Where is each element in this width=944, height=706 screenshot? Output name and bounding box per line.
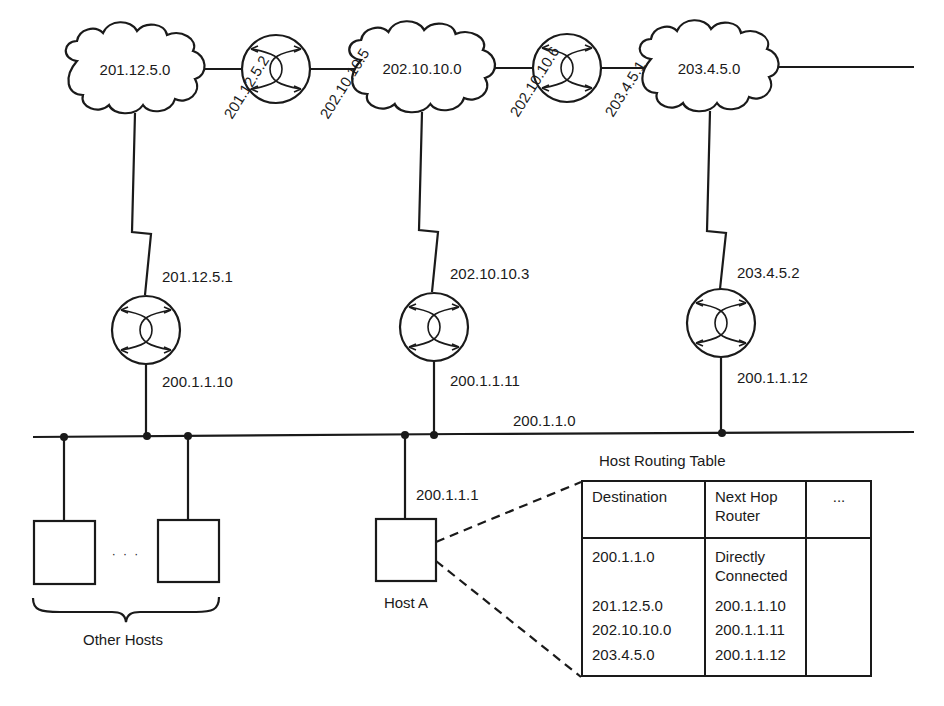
brace-icon bbox=[33, 597, 219, 622]
table-row: 202.10.10.0 200.1.1.11 bbox=[583, 618, 870, 643]
serial-link-r2 bbox=[419, 112, 438, 292]
host-icon-other-1 bbox=[34, 521, 95, 584]
serial-link-r1 bbox=[132, 113, 151, 295]
header-next-hop: Next HopRouter bbox=[705, 482, 806, 538]
router-icon-r1 bbox=[112, 296, 180, 364]
iface-label-203-4-5-2: 203.4.5.2 bbox=[737, 264, 800, 281]
router-icon-r3 bbox=[687, 289, 755, 357]
junction-dot bbox=[430, 431, 438, 439]
iface-label-200-1-1-12: 200.1.1.12 bbox=[737, 369, 808, 386]
network-label-net1: 201.12.5.0 bbox=[100, 61, 171, 78]
network-label-net2: 202.10.10.0 bbox=[382, 60, 461, 77]
header-destination: Destination bbox=[583, 482, 705, 538]
cell-extra bbox=[806, 643, 870, 675]
serial-link-r3 bbox=[707, 111, 726, 289]
table-row: 203.4.5.0 200.1.1.12 bbox=[583, 643, 870, 675]
iface-label-202-10-10-3: 202.10.10.3 bbox=[450, 265, 529, 282]
cell-destination: 200.1.1.0 bbox=[583, 538, 705, 594]
header-next-hop-line2: Router bbox=[715, 507, 760, 524]
table-header-row: Destination Next HopRouter ... bbox=[583, 482, 870, 538]
cell-next-hop: 200.1.1.12 bbox=[705, 643, 806, 675]
header-more: ... bbox=[806, 482, 870, 538]
cell-next-hop: 200.1.1.11 bbox=[705, 618, 806, 643]
junction-dot bbox=[718, 429, 726, 437]
routing-table-title: Host Routing Table bbox=[599, 452, 725, 469]
iface-label-200-1-1-10: 200.1.1.10 bbox=[162, 373, 233, 390]
cell-next-hop: DirectlyConnected bbox=[705, 538, 806, 594]
header-next-hop-line1: Next Hop bbox=[715, 488, 778, 505]
network-label-lan: 200.1.1.0 bbox=[513, 412, 576, 429]
junction-dot bbox=[143, 432, 151, 440]
callout-line-bottom bbox=[436, 561, 581, 677]
host-a-ip-label: 200.1.1.1 bbox=[416, 486, 479, 503]
lan-bus-200-1-1-0 bbox=[33, 432, 914, 437]
hosts-ellipsis: · · · bbox=[112, 547, 141, 561]
cell-destination: 201.12.5.0 bbox=[583, 594, 705, 619]
iface-label-201-12-5-1: 201.12.5.1 bbox=[162, 268, 233, 285]
cell-next-hop: 200.1.1.10 bbox=[705, 594, 806, 619]
cell-destination: 202.10.10.0 bbox=[583, 618, 705, 643]
router-icon-r2 bbox=[400, 293, 468, 361]
table-row: 200.1.1.0 DirectlyConnected bbox=[583, 538, 870, 594]
host-icon-host-a bbox=[376, 519, 436, 581]
network-label-net3: 203.4.5.0 bbox=[678, 60, 741, 77]
cell-extra bbox=[806, 594, 870, 619]
iface-label-203-4-5-1: 203.4.5.1 bbox=[601, 58, 649, 120]
host-icon-other-2 bbox=[158, 520, 219, 582]
host-routing-table: Destination Next HopRouter ... 200.1.1.0… bbox=[581, 480, 872, 677]
cell-extra bbox=[806, 538, 870, 594]
table-row: 201.12.5.0 200.1.1.10 bbox=[583, 594, 870, 619]
host-a-label: Host A bbox=[384, 594, 428, 611]
cell-destination: 203.4.5.0 bbox=[583, 643, 705, 675]
iface-label-200-1-1-11: 200.1.1.11 bbox=[450, 372, 520, 389]
cell-extra bbox=[806, 618, 870, 643]
cell-next-hop-line1: Directly bbox=[715, 548, 765, 565]
cell-next-hop-line2: Connected bbox=[715, 567, 788, 584]
other-hosts-label: Other Hosts bbox=[83, 631, 163, 648]
